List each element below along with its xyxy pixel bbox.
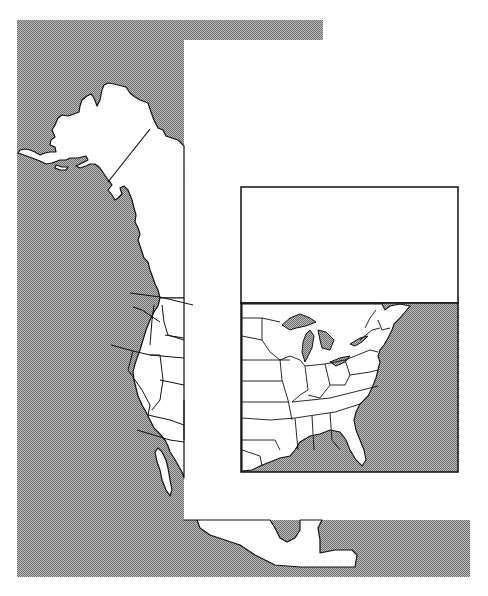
inset-title-panel [241,187,458,303]
eastern-us-inset [241,187,458,472]
north-america-outline-map [0,0,488,596]
